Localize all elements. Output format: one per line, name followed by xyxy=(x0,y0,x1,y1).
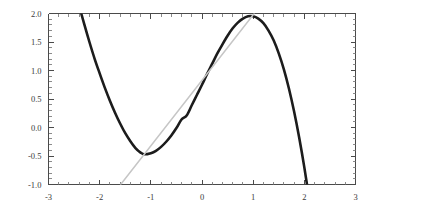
y-tick-label: 1.0 xyxy=(31,66,42,76)
chart-figure: -3-2-10123-1.0-0.50.00.51.01.52.0 xyxy=(0,0,422,208)
y-tick-label: 0.5 xyxy=(31,94,42,104)
plot-background xyxy=(0,0,422,208)
x-tick-label: 3 xyxy=(353,192,357,202)
x-tick-label: -2 xyxy=(96,192,103,202)
x-tick-label: -1 xyxy=(147,192,154,202)
y-tick-label: -0.5 xyxy=(28,151,41,161)
y-tick-label: 2.0 xyxy=(31,9,42,19)
x-tick-label: 2 xyxy=(302,192,306,202)
x-tick-label: 1 xyxy=(251,192,255,202)
y-tick-label: 1.5 xyxy=(31,37,42,47)
x-tick-label: 0 xyxy=(200,192,204,202)
y-tick-label: -1.0 xyxy=(28,180,41,190)
x-tick-label: -3 xyxy=(45,192,52,202)
plot-canvas: -3-2-10123-1.0-0.50.00.51.01.52.0 xyxy=(0,0,422,208)
y-tick-label: 0.0 xyxy=(31,123,42,133)
